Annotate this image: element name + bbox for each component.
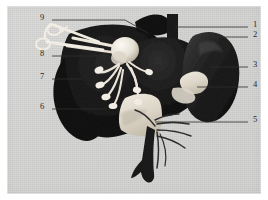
callout-label-2[interactable]: 2 [253,30,257,39]
specimen-plate: 1 2 3 4 5 9 8 7 6 [7,6,261,194]
liver-superior-horn [135,15,172,36]
callout-label-8[interactable]: 8 [40,49,44,58]
callout-label-9[interactable]: 9 [40,13,44,22]
vena-cava-band [167,14,178,39]
callout-label-6[interactable]: 6 [40,102,44,111]
specimen-mass [36,14,239,183]
callout-label-4[interactable]: 4 [253,80,257,89]
figure-root: 1 2 3 4 5 9 8 7 6 [0,0,268,200]
specimen-photograph [7,6,261,194]
callout-label-3[interactable]: 3 [253,60,257,69]
callout-label-7[interactable]: 7 [40,72,44,81]
callout-label-1[interactable]: 1 [253,20,257,29]
callout-label-5[interactable]: 5 [253,115,257,124]
